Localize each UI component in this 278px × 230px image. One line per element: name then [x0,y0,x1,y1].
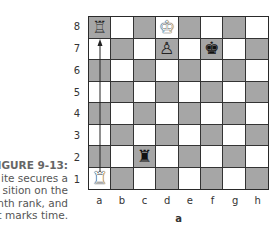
square-b3 [111,125,133,147]
square-a2 [89,146,111,168]
square-g5 [223,82,245,104]
square-d5 [156,82,178,104]
square-a4 [89,103,111,125]
rank-label: 1 [72,168,82,190]
square-d7: ♙ [156,39,178,61]
file-label: g [224,195,247,206]
chess-board: ♖♚♙♚♜♜ [88,16,269,190]
square-f8 [201,17,223,39]
square-a3 [89,125,111,147]
square-a6 [89,60,111,82]
file-label: a [88,195,111,206]
square-c3 [134,125,156,147]
file-label: e [179,195,202,206]
file-labels: a b c d e f g h [88,195,269,206]
square-b1 [111,168,133,190]
rank-label: 4 [72,103,82,125]
square-c1 [134,168,156,190]
square-h5 [246,82,268,104]
square-c7 [134,39,156,61]
rank-label: 7 [72,38,82,60]
black-king-icon: ♚ [204,40,219,57]
square-e8 [179,17,201,39]
square-d1 [156,168,178,190]
file-label: c [133,195,156,206]
square-g6 [223,60,245,82]
square-d4 [156,103,178,125]
rank-label: 2 [72,147,82,169]
white-pawn-icon: ♙ [159,40,174,57]
square-h6 [246,60,268,82]
rank-label: 8 [72,16,82,38]
square-b5 [111,82,133,104]
square-g7 [223,39,245,61]
square-c2: ♜ [134,146,156,168]
white-rook-icon: ♜ [92,170,107,187]
rank-label: 6 [72,60,82,82]
caption-line: t marks time. [0,209,68,222]
black-rook-icon: ♜ [137,148,152,165]
square-h1 [246,168,268,190]
square-c8 [134,17,156,39]
diagram-sublabel: a [88,213,269,224]
square-h3 [246,125,268,147]
caption-line: ite secures a [0,172,68,185]
square-f2 [201,146,223,168]
square-b6 [111,60,133,82]
figure-label: FIGURE 9-13: [0,159,68,172]
square-e5 [179,82,201,104]
square-b4 [111,103,133,125]
square-c5 [134,82,156,104]
square-d6 [156,60,178,82]
file-label: f [201,195,224,206]
square-e3 [179,125,201,147]
square-h2 [246,146,268,168]
square-f6 [201,60,223,82]
rank-label: 5 [72,81,82,103]
square-f3 [201,125,223,147]
square-a7 [89,39,111,61]
square-g4 [223,103,245,125]
square-h4 [246,103,268,125]
square-c4 [134,103,156,125]
caption-line: nth rank, and [0,197,68,210]
square-a5 [89,82,111,104]
square-e2 [179,146,201,168]
file-label: h [246,195,269,206]
square-b8 [111,17,133,39]
square-d2 [156,146,178,168]
square-g3 [223,125,245,147]
square-h8 [246,17,268,39]
square-b2 [111,146,133,168]
square-e7 [179,39,201,61]
square-d3 [156,125,178,147]
square-e1 [179,168,201,190]
white-rook-icon: ♖ [92,19,107,36]
square-f7: ♚ [201,39,223,61]
square-g1 [223,168,245,190]
square-f1 [201,168,223,190]
square-b7 [111,39,133,61]
rank-labels: 8 7 6 5 4 3 2 1 [72,16,82,190]
square-g2 [223,146,245,168]
square-e4 [179,103,201,125]
square-f4 [201,103,223,125]
square-e6 [179,60,201,82]
rank-label: 3 [72,125,82,147]
square-f5 [201,82,223,104]
white-king-icon: ♚ [159,19,174,36]
file-label: d [156,195,179,206]
square-g8 [223,17,245,39]
file-label: b [111,195,134,206]
square-a1: ♜ [89,168,111,190]
square-h7 [246,39,268,61]
square-d8: ♚ [156,17,178,39]
figure-caption: FIGURE 9-13: ite secures a sition on the… [0,159,68,222]
square-c6 [134,60,156,82]
square-a8: ♖ [89,17,111,39]
caption-line: sition on the [0,184,68,197]
